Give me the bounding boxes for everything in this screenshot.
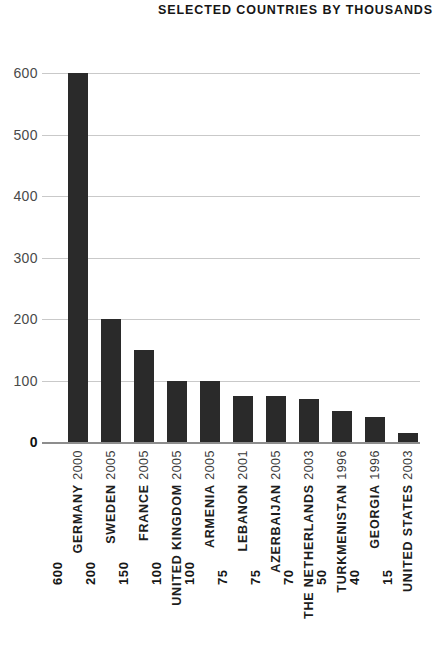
bar-value-label: 75 xyxy=(246,569,266,585)
gridline xyxy=(50,73,420,74)
chart-title: SELECTED COUNTRIES BY THOUSANDS xyxy=(0,2,433,18)
y-tick-mark xyxy=(42,442,50,444)
bar[interactable] xyxy=(200,381,220,443)
category-year: 2001 xyxy=(236,450,250,480)
x-axis-category-label: FRANCE 2005 xyxy=(134,450,154,541)
category-year: 2005 xyxy=(203,450,217,480)
bar-value-label: 50 xyxy=(312,569,332,585)
bar[interactable] xyxy=(68,73,88,442)
bar[interactable] xyxy=(233,396,253,442)
y-axis-tick-label: 600 xyxy=(0,66,38,80)
category-country-name: GERMANY xyxy=(71,484,85,554)
x-axis-category-label: ARMENIA 2005 xyxy=(200,450,220,548)
y-axis-tick-label: 0 xyxy=(0,435,38,449)
gridline xyxy=(50,258,420,259)
axis-baseline xyxy=(50,442,420,444)
category-country-name: FRANCE xyxy=(137,484,151,541)
x-axis-category-label: THE NETHERLANDS 2003 xyxy=(299,450,319,619)
bar-value-label: 70 xyxy=(279,569,299,585)
bar[interactable] xyxy=(101,319,121,442)
bar-value-label: 600 xyxy=(48,562,68,586)
bar-value-label: 150 xyxy=(114,562,134,586)
y-tick-mark xyxy=(42,381,50,382)
category-year: 1996 xyxy=(335,450,349,480)
x-axis-category-label: SWEDEN 2005 xyxy=(101,450,121,544)
bar[interactable] xyxy=(134,350,154,442)
category-year: 2005 xyxy=(137,450,151,480)
y-axis-tick-label: 500 xyxy=(0,128,38,142)
y-tick-mark xyxy=(42,135,50,136)
x-axis-category-label: GEORGIA 1996 xyxy=(365,450,385,549)
plot-area xyxy=(50,73,420,442)
category-country-name: SWEDEN xyxy=(104,484,118,544)
y-tick-mark xyxy=(42,258,50,259)
category-country-name: ARMENIA xyxy=(203,484,217,548)
category-year: 2005 xyxy=(269,450,283,480)
category-year: 2000 xyxy=(71,450,85,480)
x-axis-category-label: AZERBAIJAN 2005 xyxy=(266,450,286,573)
category-country-name: GEORGIA xyxy=(368,484,382,549)
y-tick-mark xyxy=(42,196,50,197)
category-country-name: UNITED KINGDOM xyxy=(170,484,184,606)
bar-value-label: 100 xyxy=(147,562,167,586)
gridline xyxy=(50,135,420,136)
category-year: 2003 xyxy=(302,450,316,480)
bar-value-label: 100 xyxy=(180,562,200,586)
bar[interactable] xyxy=(398,433,418,442)
y-tick-mark xyxy=(42,319,50,320)
bar[interactable] xyxy=(167,381,187,443)
category-year: 1996 xyxy=(368,450,382,480)
bar-value-label: 200 xyxy=(81,562,101,586)
y-axis-tick-label: 200 xyxy=(0,312,38,326)
y-axis-tick-label: 300 xyxy=(0,251,38,265)
bar[interactable] xyxy=(266,396,286,442)
x-axis-category-label: GERMANY 2000 xyxy=(68,450,88,554)
y-axis-tick-label: 400 xyxy=(0,189,38,203)
bar[interactable] xyxy=(365,417,385,442)
category-country-name: LEBANON xyxy=(236,484,250,551)
x-axis-category-label: LEBANON 2001 xyxy=(233,450,253,552)
bar[interactable] xyxy=(332,411,352,442)
gridline xyxy=(50,196,420,197)
y-tick-mark xyxy=(42,73,50,74)
category-country-name: UNITED STATES xyxy=(401,484,415,592)
bar-value-label: 40 xyxy=(345,569,365,585)
category-country-name: THE NETHERLANDS xyxy=(302,484,316,619)
x-axis-category-label: UNITED STATES 2003 xyxy=(398,450,418,592)
bar-value-label: 75 xyxy=(213,569,233,585)
category-year: 2005 xyxy=(104,450,118,480)
bar[interactable] xyxy=(299,399,319,442)
category-year: 2005 xyxy=(170,450,184,480)
category-year: 2003 xyxy=(401,450,415,480)
category-country-name: AZERBAIJAN xyxy=(269,484,283,573)
bar-value-label: 15 xyxy=(378,569,398,585)
y-axis-tick-label: 100 xyxy=(0,374,38,388)
